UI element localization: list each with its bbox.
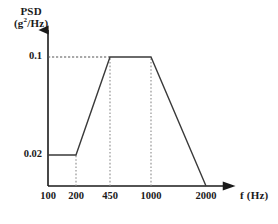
psd-curve bbox=[48, 57, 206, 186]
psd-frequency-chart: PSD (g2/Hz) f (Hz) 0.1 0.02 100 200 450 … bbox=[0, 0, 278, 224]
figure-caption bbox=[0, 213, 278, 224]
chart-plot-svg bbox=[0, 0, 278, 224]
